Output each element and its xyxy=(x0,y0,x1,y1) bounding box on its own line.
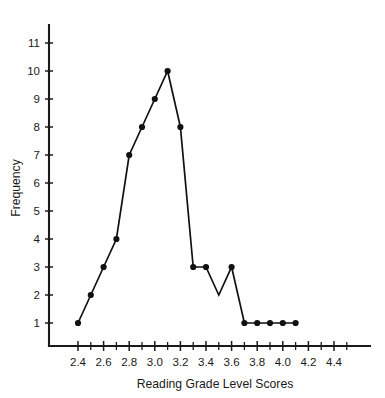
x-tick-label-2.4: 2.4 xyxy=(70,356,87,368)
data-series-group xyxy=(75,68,299,326)
x-tick-label-3.8: 3.8 xyxy=(249,356,265,368)
data-point-4.1-1 xyxy=(293,320,299,326)
x-tick-label-2.6: 2.6 xyxy=(96,356,112,368)
data-point-2.4-1 xyxy=(75,320,81,326)
data-point-2.5-2 xyxy=(88,292,94,298)
data-point-3.7-1 xyxy=(241,320,247,326)
x-axis-group: 2.42.62.83.03.23.43.63.84.04.24.4 xyxy=(49,341,370,368)
y-axis-group: 1234567891011 xyxy=(27,25,53,346)
data-point-2.7-4 xyxy=(113,236,119,242)
x-tick-label-3.0: 3.0 xyxy=(147,356,163,368)
data-point-3.3-3 xyxy=(190,264,196,270)
y-tick-label-11: 11 xyxy=(28,37,40,49)
y-tick-label-5: 5 xyxy=(34,205,40,217)
data-point-3.8-1 xyxy=(254,320,260,326)
x-tick-label-4.4: 4.4 xyxy=(326,356,343,368)
x-tick-label-4.0: 4.0 xyxy=(275,356,291,368)
x-tick-labels: 2.42.62.83.03.23.43.63.84.04.24.4 xyxy=(70,356,343,368)
y-tick-label-9: 9 xyxy=(34,93,40,105)
y-tick-label-8: 8 xyxy=(34,121,40,133)
data-point-3.4-3 xyxy=(203,264,209,270)
y-tick-label-1: 1 xyxy=(34,317,40,329)
y-tick-label-2: 2 xyxy=(34,289,40,301)
data-point-2.9-8 xyxy=(139,124,145,130)
data-point-2.8-7 xyxy=(126,152,132,158)
data-point-3.9-1 xyxy=(267,320,273,326)
chart-canvas: 1234567891011 2.42.62.83.03.23.43.63.84.… xyxy=(0,0,385,398)
series-line-frequency xyxy=(78,71,296,323)
x-tick-label-4.2: 4.2 xyxy=(300,356,316,368)
data-point-3.2-8 xyxy=(177,124,183,130)
data-point-3.6-3 xyxy=(229,264,235,270)
y-tick-labels: 1234567891011 xyxy=(27,37,40,329)
data-point-3.1-10 xyxy=(165,68,171,74)
y-axis-title: Frequency xyxy=(9,158,23,216)
x-tick-label-3.2: 3.2 xyxy=(172,356,188,368)
y-tick-label-7: 7 xyxy=(34,149,40,161)
data-point-2.6-3 xyxy=(101,264,107,270)
y-tick-label-10: 10 xyxy=(27,65,40,77)
y-tick-label-6: 6 xyxy=(34,177,40,189)
frequency-polygon-chart: 1234567891011 2.42.62.83.03.23.43.63.84.… xyxy=(0,0,385,398)
data-point-3-9 xyxy=(152,96,158,102)
y-tick-label-3: 3 xyxy=(34,261,40,273)
y-tick-label-4: 4 xyxy=(34,233,41,245)
data-point-4-1 xyxy=(280,320,286,326)
x-tick-label-2.8: 2.8 xyxy=(121,356,137,368)
x-tick-label-3.4: 3.4 xyxy=(198,356,215,368)
x-tick-label-3.6: 3.6 xyxy=(224,356,240,368)
x-axis-title: Reading Grade Level Scores xyxy=(137,377,294,391)
